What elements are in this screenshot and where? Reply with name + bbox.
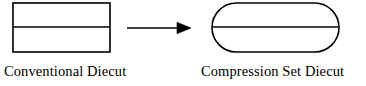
conventional-diecut-caption: Conventional Diecut: [4, 64, 126, 79]
conventional-diecut-shape: [13, 3, 110, 52]
diecut-comparison-figure: Conventional Diecut Compression Set Diec…: [0, 0, 366, 86]
compression-set-diecut-caption: Compression Set Diecut: [201, 64, 344, 79]
arrow-head-icon: [177, 22, 191, 33]
compression-set-diecut-shape: [212, 3, 339, 52]
transformation-arrow: [127, 22, 191, 33]
